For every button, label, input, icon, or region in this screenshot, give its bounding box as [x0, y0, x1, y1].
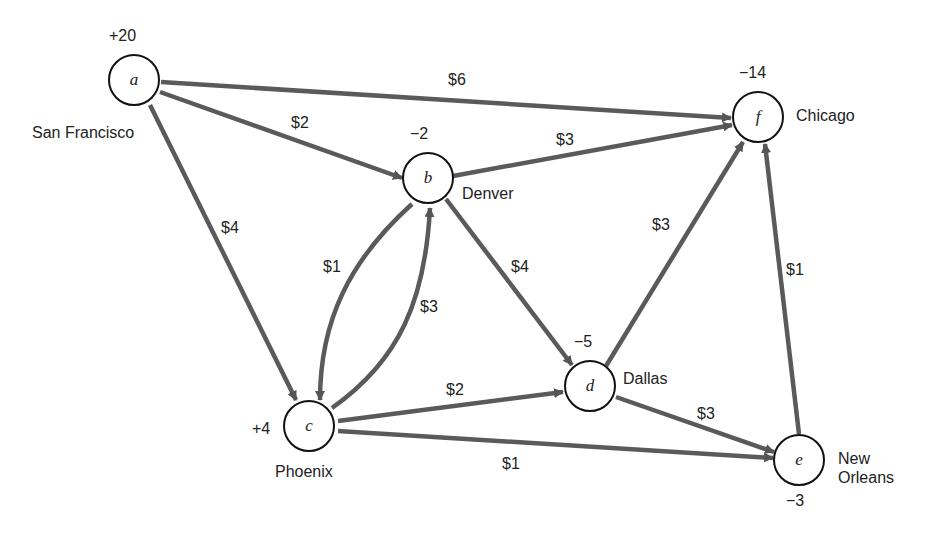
city-d: Dallas — [623, 370, 667, 388]
city-e-line2: Orleans — [838, 469, 894, 487]
node-label: f — [756, 107, 761, 127]
supply-e: −3 — [786, 492, 804, 510]
edge-a-c — [150, 105, 296, 400]
edge-d-f — [606, 142, 743, 366]
node-a: a — [108, 54, 160, 106]
node-label: a — [130, 70, 139, 90]
supply-b: −2 — [410, 125, 428, 143]
cost-d-e: $3 — [697, 405, 715, 423]
node-label: e — [795, 450, 803, 470]
cost-b-d: $4 — [511, 258, 529, 276]
edge-b-c — [320, 204, 412, 400]
city-b: Denver — [462, 185, 514, 203]
cost-b-c: $1 — [323, 258, 341, 276]
cost-b-f: $3 — [556, 131, 574, 149]
supply-c: +4 — [252, 420, 270, 438]
edge-d-e — [616, 397, 774, 452]
edge-a-b — [160, 92, 402, 178]
node-c: c — [283, 400, 335, 452]
node-label: c — [305, 416, 313, 436]
cost-e-f: $1 — [786, 261, 804, 279]
city-a: San Francisco — [32, 124, 134, 142]
city-f: Chicago — [796, 107, 855, 125]
edge-c-e — [338, 431, 773, 458]
supply-f: −14 — [739, 64, 766, 82]
cost-c-d: $2 — [446, 381, 464, 399]
cost-a-c: $4 — [221, 219, 239, 237]
cost-d-f: $3 — [652, 216, 670, 234]
node-label: b — [424, 168, 433, 188]
cost-c-b: $3 — [420, 298, 438, 316]
edge-b-f — [453, 125, 732, 176]
edge-a-f — [161, 82, 731, 118]
node-b: b — [402, 152, 454, 204]
supply-a: +20 — [109, 27, 136, 45]
supply-d: −5 — [574, 333, 592, 351]
node-e: e — [773, 434, 825, 486]
edge-e-f — [765, 144, 799, 434]
city-e-line1: New — [838, 450, 870, 468]
city-c: Phoenix — [275, 463, 333, 481]
node-d: d — [564, 360, 616, 412]
cost-a-b: $2 — [291, 114, 309, 132]
node-label: d — [586, 376, 595, 396]
edge-b-d — [446, 199, 572, 365]
cost-a-f: $6 — [448, 71, 466, 89]
cost-c-e: $1 — [502, 455, 520, 473]
node-f: f — [732, 91, 784, 143]
